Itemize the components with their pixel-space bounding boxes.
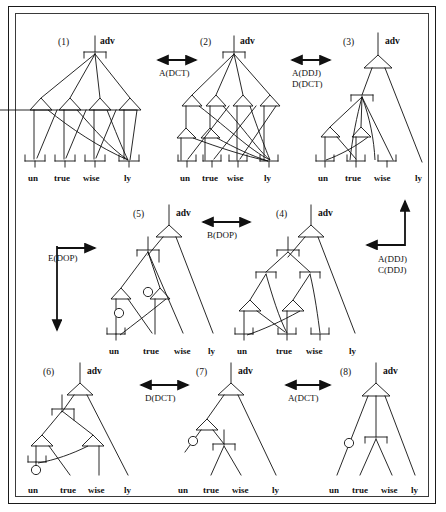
tree-7-root-label: adv bbox=[238, 366, 253, 376]
tree-2-leaf-1: un bbox=[180, 173, 190, 183]
empty-node-marker-icon bbox=[31, 465, 40, 474]
tree-5-leaf-1: un bbox=[109, 346, 119, 356]
tree-4: (4) adv bbox=[235, 205, 357, 356]
operation-b-dop: B(DOP) bbox=[203, 222, 250, 240]
tree-6-root-label: adv bbox=[87, 366, 102, 376]
tree-7-leaf-4: ly bbox=[272, 485, 280, 495]
operation-e-dop: E(DOP) bbox=[48, 246, 95, 330]
tree-5-leaf-4: ly bbox=[208, 346, 216, 356]
tree-2: (2) adv bbox=[177, 36, 280, 183]
tree-1: (1) adv bbox=[0, 36, 141, 183]
tree-7-leaf-3: wise bbox=[232, 485, 249, 495]
operation-label-addj-line1-right: A(DDJ) bbox=[378, 254, 407, 264]
tree-3-leaf-4: ly bbox=[415, 173, 423, 183]
tree-5-root-label: adv bbox=[176, 208, 191, 218]
tree-5: (5) adv un true wise ly bbox=[107, 205, 216, 356]
tree-1-leaf-1: un bbox=[28, 173, 38, 183]
tree-6-leaf-4: ly bbox=[124, 485, 132, 495]
tree-4-leaf-1: un bbox=[237, 346, 247, 356]
operation-label-a-dct-top: A(DCT) bbox=[159, 68, 190, 78]
operation-addj-ddct: A(DDJ) D(DCT) bbox=[292, 60, 330, 89]
operation-a-dct-bottom: A(DCT) bbox=[286, 385, 330, 403]
tree-2-leaf-2: true bbox=[202, 173, 218, 183]
tree-8-leaf-4: ly bbox=[411, 485, 419, 495]
tree-8-leaf-2: true bbox=[352, 485, 368, 495]
tree-6-number: (6) bbox=[43, 367, 54, 378]
operation-label-d-dct: D(DCT) bbox=[145, 393, 176, 403]
figure-container: (1) adv bbox=[0, 0, 446, 512]
operation-addj-cddj: A(DDJ) C(DDJ) bbox=[367, 201, 407, 275]
operation-label-addj-line1: A(DDJ) bbox=[292, 68, 321, 78]
empty-node-marker-icon bbox=[188, 436, 197, 445]
tree-2-leaf-3: wise bbox=[227, 173, 244, 183]
tree-8-leaf-1: un bbox=[329, 485, 339, 495]
tree-8: (8) adv un true wise ly bbox=[329, 363, 419, 495]
tree-5-number: (5) bbox=[133, 209, 144, 220]
operation-label-ddct-line2: D(DCT) bbox=[292, 79, 323, 89]
operation-label-b-dop: B(DOP) bbox=[207, 230, 237, 240]
tree-1-leaf-2: true bbox=[54, 173, 70, 183]
tree-6-leaf-2: true bbox=[60, 485, 76, 495]
tree-8-root-label: adv bbox=[383, 366, 398, 376]
tree-1-leaf-3: wise bbox=[83, 173, 100, 183]
tree-6-leaf-3: wise bbox=[88, 485, 105, 495]
operation-label-cddj-line2-right: C(DDJ) bbox=[378, 265, 407, 275]
tree-4-leaf-3: wise bbox=[306, 346, 323, 356]
tree-3-leaf-2: true bbox=[345, 173, 361, 183]
tree-3-leaf-3: wise bbox=[374, 173, 391, 183]
tree-2-leaf-4: ly bbox=[264, 173, 272, 183]
tree-6: (6) adv un true wise ly bbox=[28, 363, 132, 495]
tree-2-root-label: adv bbox=[240, 36, 255, 46]
empty-node-marker-icon bbox=[114, 308, 123, 317]
tree-3-leaf-1: un bbox=[318, 173, 328, 183]
tree-4-number: (4) bbox=[276, 209, 287, 220]
operation-label-a-dct-bottom: A(DCT) bbox=[288, 393, 319, 403]
tree-8-leaf-3: wise bbox=[381, 485, 398, 495]
tree-7: (7) adv un true wise ly bbox=[178, 363, 280, 495]
tree-4-root-label: adv bbox=[318, 208, 333, 218]
operation-d-dct: D(DCT) bbox=[141, 385, 188, 403]
tree-1-leaf-4: ly bbox=[124, 173, 132, 183]
tree-2-number: (2) bbox=[200, 37, 211, 48]
tree-7-leaf-1: un bbox=[178, 485, 188, 495]
tree-1-root-label: adv bbox=[100, 36, 115, 46]
empty-node-marker-icon bbox=[143, 287, 152, 296]
tree-5-leaf-3: wise bbox=[174, 346, 191, 356]
tree-7-leaf-2: true bbox=[203, 485, 219, 495]
empty-node-marker-icon bbox=[344, 438, 353, 447]
tree-4-leaf-2: true bbox=[276, 346, 292, 356]
tree-3-number: (3) bbox=[343, 37, 354, 48]
tree-4-leaf-4: ly bbox=[349, 346, 357, 356]
tree-1-number: (1) bbox=[58, 37, 69, 48]
tree-6-leaf-1: un bbox=[28, 485, 38, 495]
tree-3: (3) adv bbox=[316, 33, 423, 183]
operation-label-e-dop: E(DOP) bbox=[48, 253, 78, 263]
tree-3-root-label: adv bbox=[385, 36, 400, 46]
operation-a-dct-top: A(DCT) bbox=[158, 60, 196, 78]
tree-7-number: (7) bbox=[196, 367, 207, 378]
tree-transformation-diagram: (1) adv bbox=[0, 0, 446, 512]
tree-5-leaf-2: true bbox=[143, 346, 159, 356]
tree-8-number: (8) bbox=[340, 367, 351, 378]
